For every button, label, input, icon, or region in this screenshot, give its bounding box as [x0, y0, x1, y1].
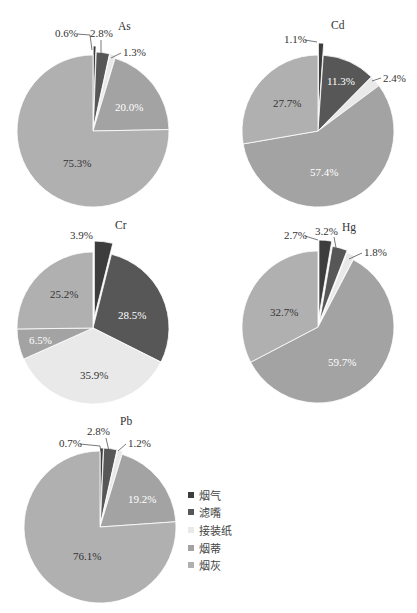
legend: 烟气 滤嘴 接装纸 烟蒂 烟灰 [188, 486, 232, 574]
data-label-filter: 2.8% [87, 425, 110, 437]
legend-swatch-icon [188, 509, 194, 515]
data-label-filter: 11.3% [327, 75, 355, 87]
data-label-butt: 57.4% [310, 166, 338, 178]
data-label-butt: 20.0% [115, 101, 143, 113]
pie-title-hg: Hg [342, 221, 356, 234]
data-label-butt: 19.2% [128, 493, 156, 505]
data-label-filter: 3.2% [315, 225, 338, 237]
pie-chart-as: 0.6%2.8%1.3%20.0%75.3% [17, 27, 169, 207]
legend-swatch-icon [188, 545, 194, 551]
legend-label: 烟蒂 [199, 540, 221, 556]
data-label-ash: 32.7% [270, 306, 298, 318]
data-label-smoke: 0.7% [59, 437, 82, 449]
legend-label: 烟灰 [199, 557, 221, 573]
legend-item-tipping-paper: 接装纸 [188, 521, 232, 539]
pie-title-cd: Cd [331, 19, 345, 31]
pie-title-cr: Cr [115, 219, 127, 231]
legend-item-ash: 烟灰 [188, 556, 232, 574]
data-label-ash: 76.1% [73, 550, 101, 562]
legend-label: 滤嘴 [199, 504, 221, 520]
data-label-ash: 27.7% [273, 97, 301, 109]
data-label-butt: 6.5% [29, 334, 52, 346]
data-label-tipping-paper: 1.8% [364, 246, 387, 258]
pie-chart-figure: 0.6%2.8%1.3%20.0%75.3% 1.1%11.3%2.4%57.4… [0, 0, 417, 613]
legend-label: 烟气 [199, 487, 221, 503]
data-label-smoke: 3.9% [70, 229, 93, 241]
legend-swatch-icon [188, 562, 194, 568]
data-label-ash: 25.2% [50, 288, 78, 300]
data-label-tipping-paper: 1.3% [123, 46, 146, 58]
data-label-butt: 59.7% [328, 356, 356, 368]
data-label-tipping-paper: 35.9% [80, 369, 108, 381]
legend-item-filter: 滤嘴 [188, 504, 232, 522]
pie-chart-hg: 2.7%3.2%1.8%59.7%32.7% [242, 225, 394, 403]
data-label-tipping-paper: 1.2% [128, 437, 151, 449]
legend-swatch-icon [188, 492, 194, 498]
pie-title-as: As [118, 20, 131, 32]
leader-line [118, 444, 126, 451]
legend-label: 接装纸 [199, 522, 232, 538]
legend-item-butt: 烟蒂 [188, 539, 232, 557]
legend-item-smoke: 烟气 [188, 486, 232, 504]
data-label-smoke: 1.1% [284, 33, 307, 45]
data-label-smoke: 0.6% [55, 27, 78, 39]
legend-swatch-icon [188, 527, 194, 533]
pie-chart-cr: 3.9%28.5%35.9%6.5%25.2% [17, 229, 169, 404]
pie-title-pb: Pb [120, 415, 132, 427]
data-label-filter: 2.8% [90, 27, 113, 39]
data-label-filter: 28.5% [118, 309, 146, 321]
data-label-ash: 75.3% [63, 157, 91, 169]
data-label-tipping-paper: 2.4% [383, 72, 406, 84]
pie-chart-pb: 0.7%2.8%1.2%19.2%76.1% [24, 425, 176, 603]
pie-chart-cd: 1.1%11.3%2.4%57.4%27.7% [242, 33, 406, 207]
data-label-smoke: 2.7% [284, 229, 307, 241]
